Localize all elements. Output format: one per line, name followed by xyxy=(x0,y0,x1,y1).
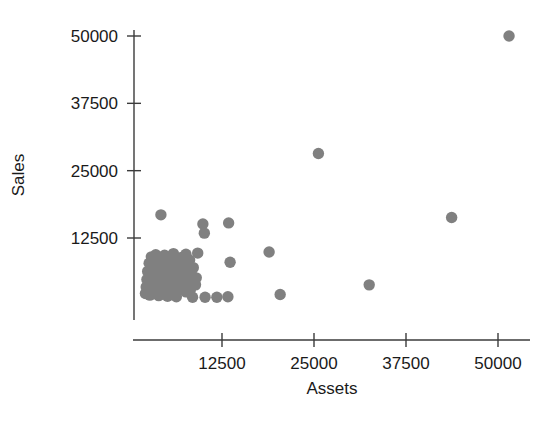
data-point xyxy=(446,212,457,223)
x-tick-label: 12500 xyxy=(198,354,245,373)
y-axis: 12500250003750050000 Sales xyxy=(9,27,141,320)
y-tick-label: 50000 xyxy=(71,27,118,46)
data-point xyxy=(364,279,375,290)
y-axis-tick-labels: 12500250003750050000 xyxy=(71,27,118,248)
data-point xyxy=(199,227,210,238)
data-point xyxy=(199,292,210,303)
scatter-plot-figure: 12500250003750050000 Sales 1250025000375… xyxy=(0,0,552,422)
data-point-series xyxy=(140,30,515,303)
data-point xyxy=(224,257,235,268)
data-point xyxy=(503,30,514,41)
data-point xyxy=(223,217,234,228)
y-tick-label: 12500 xyxy=(71,229,118,248)
x-axis-tick-labels: 12500250003750050000 xyxy=(198,354,521,373)
data-point xyxy=(187,292,198,303)
x-axis-title: Assets xyxy=(306,379,357,398)
data-point xyxy=(211,292,222,303)
data-point xyxy=(263,246,274,257)
data-point xyxy=(222,291,233,302)
y-tick-label: 37500 xyxy=(71,94,118,113)
y-tick-label: 25000 xyxy=(71,162,118,181)
data-point xyxy=(155,209,166,220)
data-point xyxy=(274,289,285,300)
data-point xyxy=(313,148,324,159)
y-axis-title: Sales xyxy=(9,154,28,197)
data-point xyxy=(171,291,182,302)
x-tick-label: 25000 xyxy=(290,354,337,373)
x-tick-label: 37500 xyxy=(382,354,429,373)
x-axis: 12500250003750050000 Assets xyxy=(133,333,530,398)
x-tick-label: 50000 xyxy=(474,354,521,373)
plot-canvas: 12500250003750050000 Sales 1250025000375… xyxy=(0,0,552,422)
